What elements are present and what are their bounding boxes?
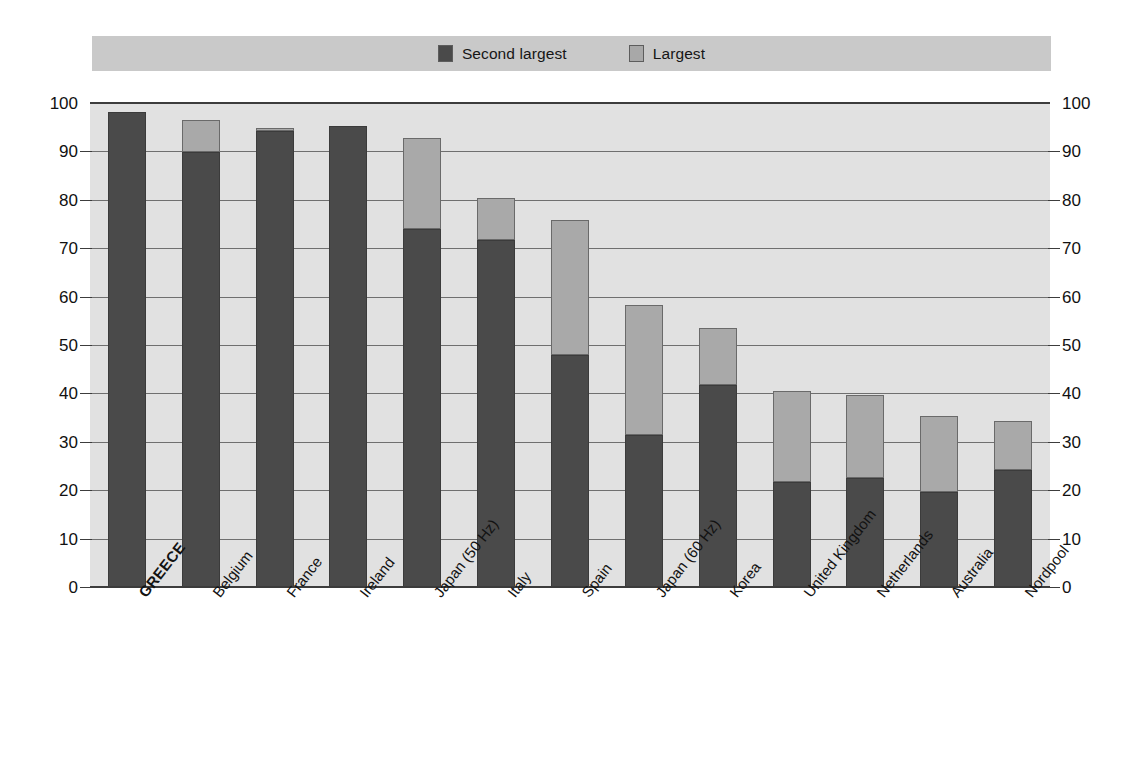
y-tick-label-right-40: 40: [1062, 385, 1081, 402]
bar-segment[interactable]: [477, 198, 515, 240]
bars-layer: [90, 103, 1050, 587]
bar-group[interactable]: [920, 416, 958, 587]
y-tick-mark-right-90: [1048, 151, 1060, 152]
bar-group[interactable]: [329, 126, 367, 587]
y-tick-label-left-0: 0: [69, 579, 78, 596]
y-tick-mark-right-60: [1048, 297, 1060, 298]
bar-segment[interactable]: [329, 126, 367, 587]
y-tick-label-right-10: 10: [1062, 531, 1081, 548]
legend-label-largest: Largest: [653, 45, 705, 63]
y-tick-mark-left-20: [80, 490, 92, 491]
y-tick-mark-right-20: [1048, 490, 1060, 491]
bar-group[interactable]: [994, 421, 1032, 587]
bar-segment[interactable]: [773, 482, 811, 588]
y-tick-mark-right-0: [1048, 587, 1060, 588]
bar-group[interactable]: [551, 220, 589, 587]
bar-segment[interactable]: [699, 328, 737, 385]
y-tick-label-left-80: 80: [59, 192, 78, 209]
chart-legend: Second largest Largest: [92, 36, 1051, 71]
bar-segment[interactable]: [108, 112, 146, 587]
y-tick-label-left-100: 100: [50, 95, 78, 112]
y-tick-mark-right-80: [1048, 200, 1060, 201]
y-tick-label-left-40: 40: [59, 385, 78, 402]
bar-segment[interactable]: [403, 138, 441, 229]
y-tick-mark-right-30: [1048, 442, 1060, 443]
bar-segment[interactable]: [920, 416, 958, 492]
y-tick-mark-left-60: [80, 297, 92, 298]
y-tick-mark-left-40: [80, 393, 92, 394]
y-axis-right: 1009080706050403020100: [1062, 103, 1118, 587]
bar-segment[interactable]: [846, 395, 884, 478]
y-tick-label-left-30: 30: [59, 434, 78, 451]
bar-group[interactable]: [108, 112, 146, 587]
bar-segment[interactable]: [994, 421, 1032, 470]
y-tick-mark-left-50: [80, 345, 92, 346]
y-axis-left: 1009080706050403020100: [22, 103, 78, 587]
y-tick-label-right-100: 100: [1062, 95, 1090, 112]
y-tick-label-right-50: 50: [1062, 337, 1081, 354]
legend-swatch-icon-largest: [629, 45, 644, 62]
bar-segment[interactable]: [403, 229, 441, 587]
y-tick-label-left-10: 10: [59, 531, 78, 548]
bar-segment[interactable]: [182, 120, 220, 152]
y-tick-label-right-80: 80: [1062, 192, 1081, 209]
y-tick-label-right-30: 30: [1062, 434, 1081, 451]
bar-segment[interactable]: [773, 391, 811, 482]
y-tick-mark-right-70: [1048, 248, 1060, 249]
y-tick-label-right-20: 20: [1062, 482, 1081, 499]
bar-segment[interactable]: [551, 220, 589, 355]
bar-group[interactable]: [182, 120, 220, 587]
legend-label-second-largest: Second largest: [462, 45, 567, 63]
y-tick-label-left-70: 70: [59, 240, 78, 257]
bar-group[interactable]: [773, 391, 811, 587]
bar-group[interactable]: [846, 395, 884, 587]
x-axis-categories: GREECEBelgiumFranceIrelandJapan (50 Hz)I…: [90, 590, 1050, 730]
bar-segment[interactable]: [625, 435, 663, 587]
bar-group[interactable]: [625, 305, 663, 587]
y-tick-mark-right-50: [1048, 345, 1060, 346]
y-tick-mark-left-90: [80, 151, 92, 152]
y-tick-label-right-90: 90: [1062, 143, 1081, 160]
y-tick-label-right-60: 60: [1062, 289, 1081, 306]
bar-segment[interactable]: [182, 152, 220, 587]
legend-entry-second-largest: Second largest: [438, 45, 567, 63]
bar-segment[interactable]: [699, 385, 737, 587]
y-tick-mark-left-0: [80, 587, 92, 588]
y-tick-mark-left-80: [80, 200, 92, 201]
stacked-bar-chart: Second largest Largest 10090807060504030…: [0, 0, 1138, 757]
bar-segment[interactable]: [994, 470, 1032, 587]
bar-segment[interactable]: [256, 131, 294, 587]
y-tick-label-right-0: 0: [1062, 579, 1071, 596]
y-tick-label-left-60: 60: [59, 289, 78, 306]
bar-segment[interactable]: [625, 305, 663, 435]
bar-group[interactable]: [256, 128, 294, 587]
legend-swatch-icon-second-largest: [438, 45, 453, 62]
y-tick-mark-left-10: [80, 539, 92, 540]
bar-segment[interactable]: [551, 355, 589, 587]
y-tick-label-left-20: 20: [59, 482, 78, 499]
y-tick-mark-right-40: [1048, 393, 1060, 394]
y-tick-label-right-70: 70: [1062, 240, 1081, 257]
y-tick-label-left-50: 50: [59, 337, 78, 354]
y-tick-mark-right-10: [1048, 539, 1060, 540]
y-tick-label-left-90: 90: [59, 143, 78, 160]
bar-group[interactable]: [403, 138, 441, 587]
y-tick-mark-left-30: [80, 442, 92, 443]
legend-entry-largest: Largest: [629, 45, 705, 63]
y-tick-mark-left-70: [80, 248, 92, 249]
